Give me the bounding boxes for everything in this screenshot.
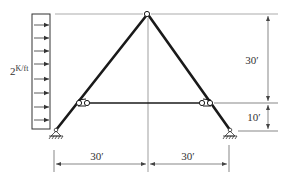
load-label: 2K/ft xyxy=(10,64,29,77)
apex-hinge-icon xyxy=(144,11,149,16)
left-rafter-hinge-icon xyxy=(76,100,81,105)
distributed-load: 2K/ft xyxy=(10,14,50,129)
right-tie-hinge-icon xyxy=(199,100,204,105)
structural-diagram: 2K/ft xyxy=(0,0,286,191)
load-units: K/ft xyxy=(16,64,30,73)
left-rafter xyxy=(56,16,146,130)
vertical-dimensions xyxy=(214,16,278,131)
left-pin-support-icon xyxy=(49,128,63,139)
load-arrows xyxy=(34,25,49,120)
right-rafter xyxy=(149,16,230,130)
right-pin-support-icon xyxy=(223,128,237,139)
dimension-label-right: 30′ xyxy=(181,150,194,162)
dimension-label-left: 30′ xyxy=(90,150,103,162)
dimension-label-lower: 10′ xyxy=(247,111,260,123)
frame xyxy=(56,16,230,130)
load-box xyxy=(32,14,50,129)
dimension-label-upper: 30′ xyxy=(245,54,258,66)
right-rafter-hinge-icon xyxy=(207,100,212,105)
horizontal-dimensions xyxy=(54,145,229,172)
left-tie-hinge-icon xyxy=(84,100,89,105)
